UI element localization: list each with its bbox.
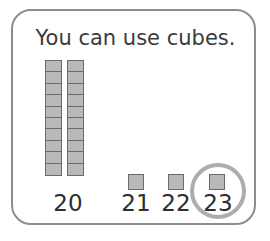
cube	[67, 163, 84, 176]
count-label-22: 22	[156, 192, 196, 215]
single-cube-22	[168, 174, 184, 190]
cube-rod-1	[45, 60, 62, 174]
worksheet-card: You can use cubes. 20 21 22 23	[11, 9, 256, 225]
cube-rod-2	[67, 60, 84, 174]
count-label-tens: 20	[48, 192, 88, 215]
tens-rods-group	[45, 60, 91, 190]
count-label-21: 21	[116, 192, 156, 215]
cube	[45, 163, 62, 176]
single-cube-21	[128, 174, 144, 190]
count-label-23: 23	[198, 192, 238, 215]
page-title: You can use cubes.	[13, 25, 258, 51]
